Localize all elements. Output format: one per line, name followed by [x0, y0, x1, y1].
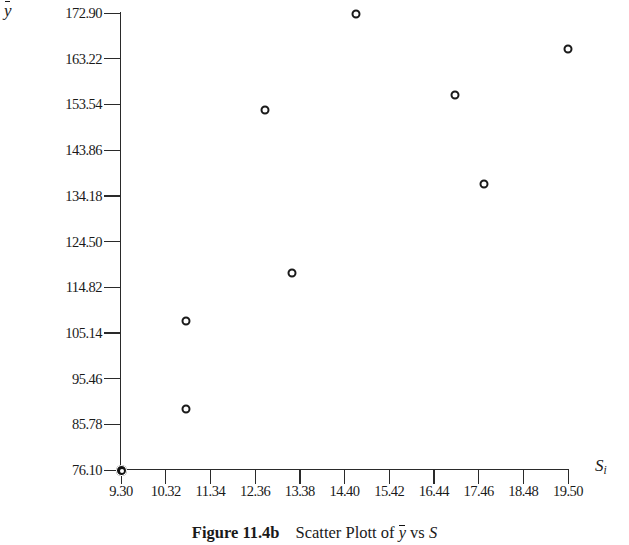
- y-tick-label: 95.46: [28, 372, 102, 387]
- x-tick-label: 19.50: [542, 484, 594, 499]
- x-tick-mark: [433, 470, 434, 484]
- y-tick-label: 153.54: [28, 97, 102, 112]
- caption-ybar: y: [399, 524, 406, 543]
- x-tick-mark: [299, 470, 300, 484]
- y-tick-mark: [104, 195, 121, 196]
- y-tick-mark: [104, 287, 121, 288]
- x-axis-title-subscript: i: [604, 464, 607, 476]
- x-tick-mark: [210, 470, 211, 484]
- y-tick-mark: [104, 13, 121, 14]
- x-axis-title: Si: [595, 457, 607, 477]
- x-tick-mark: [523, 470, 524, 484]
- figure-caption-label: Figure 11.4b: [192, 523, 280, 542]
- data-point: [260, 105, 269, 114]
- figure-caption-text: Scatter Plott of: [296, 523, 399, 542]
- y-tick-label: 105.14: [28, 326, 102, 341]
- y-tick-mark: [104, 150, 121, 151]
- y-tick-mark: [104, 58, 121, 59]
- data-point: [351, 10, 360, 19]
- y-tick-label: 124.50: [28, 235, 102, 250]
- data-point: [181, 316, 190, 325]
- caption-s-symbol: S: [429, 523, 437, 542]
- y-tick-label: 172.90: [28, 6, 102, 21]
- y-tick-mark: [104, 424, 121, 425]
- y-tick-mark: [104, 104, 121, 105]
- y-tick-label: 85.78: [28, 417, 102, 432]
- y-tick-label: 143.86: [28, 143, 102, 158]
- x-tick-mark: [344, 470, 345, 484]
- x-tick-mark: [165, 470, 166, 484]
- data-point: [287, 268, 296, 277]
- y-tick-label: 163.22: [28, 52, 102, 67]
- y-tick-mark: [104, 332, 121, 333]
- data-point: [564, 45, 573, 54]
- origin-marker: [116, 465, 127, 476]
- x-tick-mark: [255, 470, 256, 484]
- y-axis-title: y: [4, 2, 12, 19]
- x-tick-mark: [568, 470, 569, 484]
- scatter-plot-figure: y 76.1085.7895.46105.14114.82124.50134.1…: [0, 0, 629, 545]
- y-tick-label: 114.82: [28, 280, 102, 295]
- x-axis-title-text: S: [595, 456, 604, 475]
- y-tick-mark: [104, 378, 121, 379]
- y-axis-title-text: y: [4, 2, 12, 19]
- figure-caption-mid: vs: [406, 523, 429, 542]
- y-tick-label: 134.18: [28, 189, 102, 204]
- data-point: [450, 90, 459, 99]
- x-tick-mark: [389, 470, 390, 484]
- y-tick-label: 76.10: [28, 463, 102, 478]
- x-tick-mark: [478, 470, 479, 484]
- y-tick-mark: [104, 241, 121, 242]
- data-point: [479, 179, 488, 188]
- figure-caption: Figure 11.4bScatter Plott of y vs S: [0, 524, 629, 543]
- data-point: [181, 404, 190, 413]
